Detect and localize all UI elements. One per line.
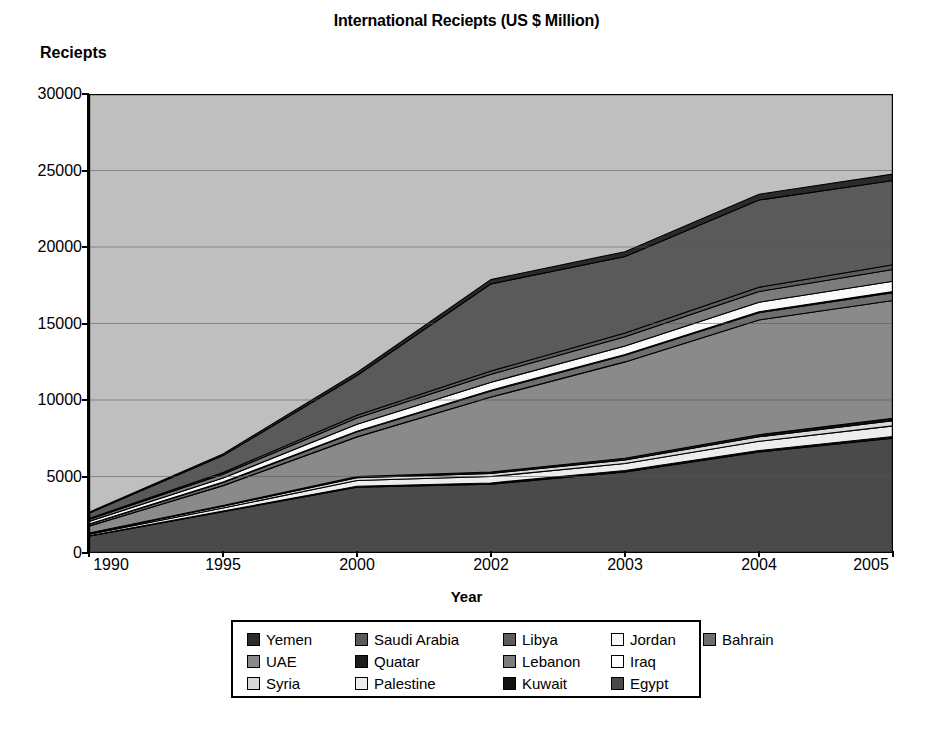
legend-item-syria[interactable]: Syria — [247, 676, 355, 691]
legend-swatch-icon — [355, 655, 368, 668]
legend-label: Egypt — [630, 676, 668, 691]
legend-item-uae[interactable]: UAE — [247, 654, 355, 669]
legend-item-saudi-arabia[interactable]: Saudi Arabia — [355, 632, 503, 647]
x-axis-tick-mark — [222, 551, 224, 557]
chart-container: International Reciepts (US $ Million) Re… — [0, 0, 933, 734]
legend-label: Yemen — [266, 632, 312, 647]
legend-label: Lebanon — [522, 654, 580, 669]
legend-item-yemen[interactable]: Yemen — [247, 632, 355, 647]
legend-swatch-icon — [503, 677, 516, 690]
legend-swatch-icon — [247, 633, 260, 646]
x-axis-tick-mark — [88, 551, 90, 557]
legend-item-bahrain[interactable]: Bahrain — [703, 632, 774, 647]
chart-legend: YemenSaudi ArabiaLibyaJordanBahrainUAEQu… — [231, 620, 701, 698]
y-tick-label: 5000 — [46, 468, 82, 486]
legend-label: Quatar — [374, 654, 420, 669]
legend-grid: YemenSaudi ArabiaLibyaJordanBahrainUAEQu… — [247, 628, 689, 694]
x-tick-label: 2005 — [853, 556, 889, 574]
legend-item-jordan[interactable]: Jordan — [611, 632, 703, 647]
x-axis-tick-mark — [892, 551, 894, 557]
legend-item-iraq[interactable]: Iraq — [611, 654, 703, 669]
x-axis-title: Year — [0, 588, 933, 605]
y-tick-label: 25000 — [38, 162, 83, 180]
legend-label: Libya — [522, 632, 558, 647]
y-tick-label: 30000 — [38, 85, 83, 103]
x-tick-label: 1995 — [205, 556, 241, 574]
legend-item-palestine[interactable]: Palestine — [355, 676, 503, 691]
y-tick-label: 10000 — [38, 391, 83, 409]
plot-area — [89, 94, 893, 553]
legend-label: Jordan — [630, 632, 676, 647]
legend-item-quatar[interactable]: Quatar — [355, 654, 503, 669]
x-axis-tick-labels: 1990199520002002200320042005 — [89, 556, 893, 582]
legend-swatch-icon — [355, 677, 368, 690]
legend-label: UAE — [266, 654, 297, 669]
legend-item-libya[interactable]: Libya — [503, 632, 611, 647]
legend-swatch-icon — [247, 655, 260, 668]
x-tick-label: 2003 — [607, 556, 643, 574]
x-axis-tick-mark — [624, 551, 626, 557]
stacked-area-plot — [89, 94, 893, 553]
x-axis-tick-mark — [356, 551, 358, 557]
y-axis-tick-labels: 050001000015000200002500030000 — [0, 94, 82, 553]
legend-item-egypt[interactable]: Egypt — [611, 676, 703, 691]
y-axis-title: Reciepts — [40, 44, 107, 62]
legend-swatch-icon — [611, 655, 624, 668]
legend-swatch-icon — [611, 677, 624, 690]
legend-swatch-icon — [503, 655, 516, 668]
legend-swatch-icon — [503, 633, 516, 646]
y-tick-label: 0 — [73, 544, 82, 562]
x-tick-label: 1990 — [93, 556, 129, 574]
legend-swatch-icon — [703, 633, 716, 646]
legend-swatch-icon — [247, 677, 260, 690]
x-axis-tick-mark — [758, 551, 760, 557]
chart-title: International Reciepts (US $ Million) — [0, 12, 933, 30]
y-tick-label: 15000 — [38, 315, 83, 333]
x-tick-label: 2000 — [339, 556, 375, 574]
legend-label: Saudi Arabia — [374, 632, 459, 647]
x-tick-label: 2002 — [473, 556, 509, 574]
legend-label: Bahrain — [722, 632, 774, 647]
legend-item-kuwait[interactable]: Kuwait — [503, 676, 611, 691]
legend-label: Iraq — [630, 654, 656, 669]
x-tick-label: 2004 — [741, 556, 777, 574]
legend-label: Kuwait — [522, 676, 567, 691]
y-tick-label: 20000 — [38, 238, 83, 256]
legend-swatch-icon — [355, 633, 368, 646]
legend-swatch-icon — [611, 633, 624, 646]
x-axis-tick-mark — [490, 551, 492, 557]
legend-label: Palestine — [374, 676, 436, 691]
legend-item-lebanon[interactable]: Lebanon — [503, 654, 611, 669]
legend-label: Syria — [266, 676, 300, 691]
